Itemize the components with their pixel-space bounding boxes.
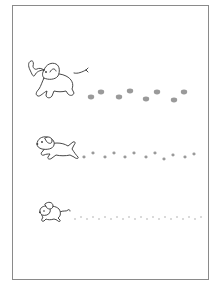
mouse-footprint xyxy=(176,216,177,217)
dog-footprint xyxy=(91,152,94,155)
mouse-footprint xyxy=(74,218,75,219)
dog-footprint xyxy=(132,152,135,155)
dog-footprint xyxy=(123,156,126,159)
mouse-footprint xyxy=(122,218,123,219)
mouse-footprint xyxy=(182,218,183,219)
dog-footprint xyxy=(112,152,115,155)
mouse-footprint xyxy=(146,218,147,219)
dog-footprint xyxy=(103,156,106,159)
dog-footprint xyxy=(144,156,147,159)
elephant-footprint xyxy=(88,95,94,100)
elephant-footprint xyxy=(171,98,177,103)
dog-footprint-trail xyxy=(82,152,195,161)
mouse-footprint xyxy=(92,216,93,217)
mouse-footprint xyxy=(188,216,189,217)
mouse-footprint xyxy=(140,216,141,217)
mouse-footprint xyxy=(170,218,171,219)
mouse-footprint xyxy=(164,216,165,217)
mouse-footprint xyxy=(194,218,195,219)
mouse-footprint xyxy=(104,216,105,217)
mouse-footprint xyxy=(158,218,159,219)
dog-footprint xyxy=(162,158,165,161)
mouse-icon xyxy=(39,202,70,221)
mouse-footprint xyxy=(110,218,111,219)
elephant-footprint xyxy=(127,89,133,94)
elephant-icon xyxy=(29,61,88,98)
dog-footprint xyxy=(183,156,186,159)
dog-footprint xyxy=(171,154,174,157)
dog-icon xyxy=(37,137,78,159)
elephant-footprint xyxy=(154,90,160,95)
dog-footprint xyxy=(82,156,85,159)
mouse-footprint-trail xyxy=(74,216,201,219)
dog-footprint xyxy=(153,152,156,155)
elephant-footprint xyxy=(98,90,104,95)
elephant-footprint-trail xyxy=(88,89,187,103)
mouse-footprint xyxy=(86,218,87,219)
mouse-footprint xyxy=(152,216,153,217)
worksheet-canvas xyxy=(0,0,218,290)
mouse-footprint xyxy=(80,216,81,217)
mouse-footprint xyxy=(98,218,99,219)
mouse-footprint xyxy=(128,216,129,217)
mouse-footprint xyxy=(200,216,201,217)
elephant-footprint xyxy=(116,95,122,100)
mouse-footprint xyxy=(134,218,135,219)
elephant-footprint xyxy=(143,97,149,102)
dog-footprint xyxy=(192,153,195,156)
elephant-footprint xyxy=(181,90,187,95)
mouse-footprint xyxy=(116,216,117,217)
